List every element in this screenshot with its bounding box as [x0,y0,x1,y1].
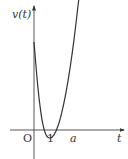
tick-label-a: a [70,132,77,145]
origin-label: O [23,132,32,145]
velocity-graph: v(t) t O 1 a [0,0,128,159]
v-curve [34,0,100,138]
tick-label-1: 1 [47,132,54,145]
x-axis-label: t [117,132,122,145]
y-axis-label: v(t) [12,8,31,21]
